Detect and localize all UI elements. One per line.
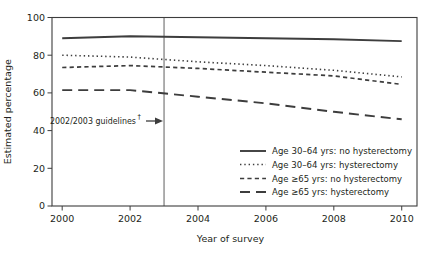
x-tick-label: 2006 [254,213,278,224]
series-line-3 [62,90,402,119]
annotation-dagger: † [138,113,142,121]
y-tick-label: 80 [33,50,45,61]
x-axis-title: Year of survey [196,233,265,244]
x-tick-label: 2008 [322,213,346,224]
series-line-1 [62,55,402,77]
x-tick-label: 2004 [186,213,210,224]
legend-label-1: Age 30–64 yrs: hysterectomy [272,160,399,170]
y-tick-label: 20 [33,163,45,174]
y-tick-label: 0 [39,200,45,211]
line-chart: 020406080100200020022004200620082010Esti… [0,0,430,254]
legend-label-0: Age 30–64 yrs: no hysterectomy [272,146,413,156]
x-tick-label: 2002 [118,213,142,224]
figure: 020406080100200020022004200620082010Esti… [0,0,430,254]
legend-label-3: Age ≥65 yrs: hysterectomy [272,187,390,197]
x-tick-label: 2010 [390,213,414,224]
x-tick-label: 2000 [50,213,74,224]
y-axis-title: Estimated percentage [2,59,13,164]
annotation-text: 2002/2003 guidelines [50,116,136,126]
series-line-2 [62,66,402,85]
y-tick-label: 40 [33,125,45,136]
y-tick-label: 60 [33,87,45,98]
legend-label-2: Age ≥65 yrs: no hysterectomy [272,174,403,184]
series-line-0 [62,36,402,41]
y-tick-label: 100 [27,12,45,23]
right-arrow-icon [155,117,163,124]
